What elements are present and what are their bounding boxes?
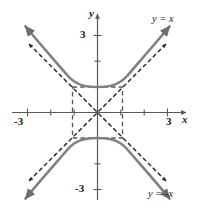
y-axis-tick-label-pos3: 3: [80, 29, 86, 40]
x-axis-tick-label-neg3: -3: [14, 116, 23, 127]
asymptote-label-positive: y = x: [152, 14, 174, 25]
y-axis-tick-label-neg3: -3: [75, 183, 84, 194]
plot-canvas: [0, 0, 198, 211]
asymptote-label-negative: y = -x: [148, 189, 173, 200]
hyperbola-figure: -3 3 3 -3 x y y = x y = -x: [0, 0, 198, 211]
x-axis-label: x: [182, 114, 188, 125]
x-axis-tick-label-pos3: 3: [166, 116, 172, 127]
y-axis-label: y: [89, 8, 94, 19]
